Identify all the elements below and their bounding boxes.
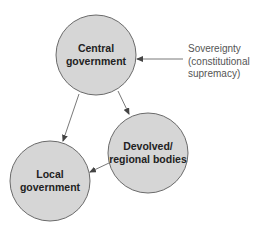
arrow-central-to-local [63, 94, 79, 141]
local-government-node: Local government [10, 141, 90, 221]
local-government-label: Local government [20, 168, 80, 194]
arrow-devolved-to-local [90, 163, 109, 172]
devolved-bodies-label: Devolved/ regional bodies [109, 140, 187, 166]
central-government-node: Central government [56, 15, 136, 95]
sovereignty-annotation: Sovereignty (constitutional supremacy) [188, 43, 250, 81]
central-government-label: Central government [66, 42, 126, 68]
devolved-bodies-node: Devolved/ regional bodies [108, 113, 188, 193]
